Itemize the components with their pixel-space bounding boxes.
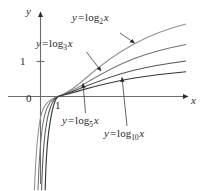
curve-label-log2-base: 2 (99, 17, 103, 26)
curve-label-log5-arg: x (94, 114, 99, 126)
y-tick-label-1: 1 (20, 56, 26, 67)
curve-label-log2: y=log2 x (72, 12, 109, 23)
logarithm-curves-figure: y=log2 x y=log3 x y=log5 x y=log10 x y x… (0, 0, 206, 191)
curve-label-log10-fn: log (117, 127, 131, 139)
curve-label-log10-base: 10 (131, 133, 138, 142)
curve-label-log3-fn: log (49, 37, 63, 49)
curve-label-log3-base: 3 (63, 43, 67, 52)
curve-label-log2-fn: log (85, 11, 99, 23)
leader-log3 (87, 52, 102, 71)
curve-label-log5: y=log5 x (62, 115, 99, 126)
curve-label-log10-op: = (109, 127, 117, 139)
curve-label-log2-arg: x (104, 11, 109, 23)
curve-label-log3: y=log3 x (36, 38, 73, 49)
curve-label-log5-base: 5 (89, 120, 93, 129)
x-tick-label-1: 1 (55, 100, 61, 111)
curve-label-log5-fn: log (75, 114, 89, 126)
curve-label-log2-op: = (77, 11, 85, 23)
curve-label-log3-arg: x (68, 37, 73, 49)
leader-log2 (120, 33, 135, 43)
origin-label: 0 (26, 93, 32, 104)
curve-label-log3-op: = (41, 37, 49, 49)
leader-log10 (122, 78, 127, 127)
leader-log5 (83, 84, 86, 114)
x-axis-label: x (191, 95, 196, 106)
curve-log3 (38, 45, 186, 190)
curve-label-log10-arg: x (139, 127, 144, 139)
curve-label-log10: y=log10 x (104, 128, 144, 139)
y-axis-label: y (26, 6, 31, 17)
curve-label-log5-op: = (67, 114, 75, 126)
